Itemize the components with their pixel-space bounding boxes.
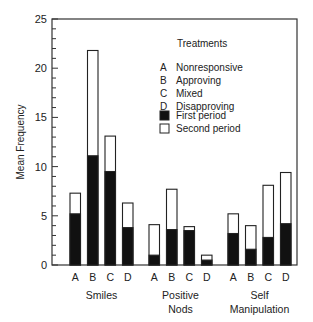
bar-group-positive-nods	[149, 189, 212, 265]
group-label: Smiles	[86, 289, 118, 301]
x-tick-label: A	[72, 271, 79, 283]
legend-code: D	[160, 101, 167, 112]
bar-first-period	[263, 237, 274, 265]
x-tick-label: C	[264, 271, 272, 283]
x-tick-label: C	[106, 271, 114, 283]
legend: Treatments ANonresponsiveBApprovingCMixe…	[160, 38, 243, 134]
legend-swatch	[160, 124, 169, 133]
legend-swatch	[160, 111, 169, 120]
bar-first-period	[281, 224, 292, 265]
x-tick-label: D	[282, 271, 290, 283]
y-tick-label: 10	[35, 161, 47, 173]
x-tick-label: D	[124, 271, 132, 283]
legend-code: B	[160, 75, 167, 86]
group-label: Positive	[162, 289, 199, 301]
chart-container: 0510152025 Mean Frequency ABCDSmilesABCD…	[0, 0, 313, 322]
bar-first-period	[202, 260, 213, 265]
y-axis: 0510152025	[35, 13, 58, 271]
legend-treatment-label: Nonresponsive	[176, 62, 243, 73]
x-tick-label: B	[247, 271, 254, 283]
y-tick-label: 20	[35, 62, 47, 74]
bar-first-period	[184, 231, 195, 265]
x-axis-labels: ABCDSmilesABCDPositiveNodsABCDSelfManipu…	[72, 271, 290, 315]
group-label: Self	[250, 289, 268, 301]
y-tick-label: 0	[41, 259, 47, 271]
group-label: Nods	[168, 303, 193, 315]
legend-title: Treatments	[177, 38, 227, 49]
legend-code: C	[160, 88, 167, 99]
x-tick-label: A	[151, 271, 158, 283]
legend-series-label: First period	[176, 110, 226, 121]
y-tick-label: 5	[41, 210, 47, 222]
y-tick-label: 25	[35, 13, 47, 25]
stacked-bar-chart: 0510152025 Mean Frequency ABCDSmilesABCD…	[0, 0, 313, 322]
y-axis-label: Mean Frequency	[15, 104, 26, 179]
x-tick-label: A	[230, 271, 237, 283]
bar-first-period	[149, 255, 160, 265]
bar-first-period	[70, 214, 81, 265]
bar-group-smiles	[70, 50, 133, 265]
bar-group-self-manipulation	[228, 173, 291, 265]
bar-first-period	[105, 172, 116, 265]
legend-series-label: Second period	[176, 123, 241, 134]
bar-first-period	[228, 234, 239, 265]
bar-first-period	[88, 156, 99, 265]
legend-code: A	[160, 62, 167, 73]
y-tick-label: 15	[35, 111, 47, 123]
bar-first-period	[167, 230, 178, 265]
bar-first-period	[246, 249, 257, 265]
x-tick-label: B	[168, 271, 175, 283]
group-label: Manipulation	[230, 303, 290, 315]
x-tick-label: C	[185, 271, 193, 283]
x-tick-label: B	[89, 271, 96, 283]
bar-first-period	[123, 228, 134, 265]
legend-treatment-label: Mixed	[176, 88, 203, 99]
legend-treatment-label: Approving	[176, 75, 221, 86]
x-tick-label: D	[203, 271, 211, 283]
